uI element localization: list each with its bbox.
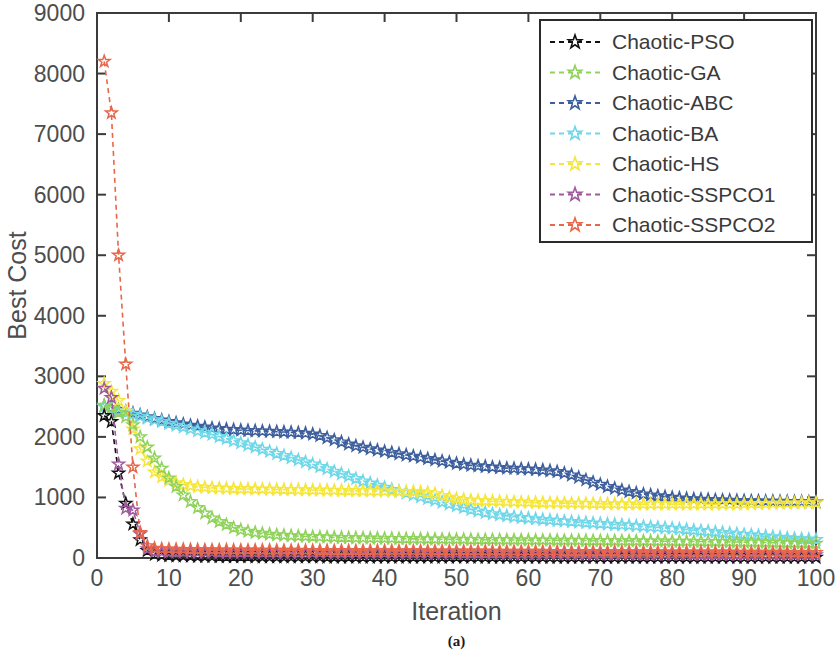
y-tick-label: 2000 [34,424,85,450]
x-tick-label: 30 [300,565,326,591]
y-tick-label: 7000 [34,121,85,147]
legend-label: Chaotic-ABC [612,91,733,114]
y-tick-label: 6000 [34,182,85,208]
legend-label: Chaotic-SSPCO1 [612,183,775,206]
x-tick-label: 50 [444,565,470,591]
legend-label: Chaotic-PSO [612,30,735,53]
x-tick-label: 0 [91,565,104,591]
x-tick-label: 20 [228,565,254,591]
y-tick-label: 4000 [34,303,85,329]
y-tick-label: 0 [72,545,85,571]
x-tick-label: 90 [731,565,757,591]
x-tick-label: 60 [516,565,542,591]
figure-caption: (a) [448,633,466,650]
y-axis-title: Best Cost [3,231,31,339]
x-tick-label: 80 [659,565,685,591]
best-cost-convergence-chart: 0102030405060708090100010002000300040005… [0,0,835,660]
x-axis-title: Iteration [411,597,501,625]
x-tick-label: 70 [588,565,614,591]
y-tick-label: 8000 [34,61,85,87]
legend-label: Chaotic-SSPCO2 [612,213,775,236]
legend-label: Chaotic-HS [612,152,719,175]
legend-label: Chaotic-GA [612,61,721,84]
y-tick-label: 9000 [34,0,85,26]
y-tick-label: 3000 [34,363,85,389]
chart-canvas: 0102030405060708090100010002000300040005… [0,0,835,660]
y-tick-label: 1000 [34,484,85,510]
x-tick-label: 100 [797,565,835,591]
x-tick-label: 40 [372,565,398,591]
legend-label: Chaotic-BA [612,122,718,145]
x-tick-label: 10 [156,565,182,591]
y-tick-label: 5000 [34,242,85,268]
figure-container: 0102030405060708090100010002000300040005… [0,0,835,660]
chart-legend: Chaotic-PSOChaotic-GAChaotic-ABCChaotic-… [540,20,812,242]
